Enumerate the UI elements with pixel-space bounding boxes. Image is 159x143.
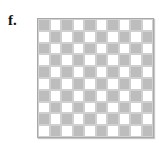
board-cell: [142, 90, 154, 102]
board-cell: [61, 90, 73, 102]
board-cell: [61, 54, 73, 66]
board-cell: [130, 19, 142, 31]
board-cell: [96, 102, 108, 114]
board-cell: [130, 125, 142, 137]
board-cell: [107, 90, 119, 102]
board-cell: [142, 125, 154, 137]
board-cell: [119, 43, 131, 55]
board-cell: [142, 19, 154, 31]
board-cell: [73, 90, 85, 102]
board-cell: [96, 54, 108, 66]
board-cell: [119, 78, 131, 90]
board-cell: [107, 66, 119, 78]
panel-label: f.: [8, 12, 17, 29]
board-cell: [84, 78, 96, 90]
board-cell: [142, 54, 154, 66]
board-cell: [84, 43, 96, 55]
board-cell: [142, 66, 154, 78]
board-cell: [107, 102, 119, 114]
board-cell: [119, 54, 131, 66]
board-cell: [73, 125, 85, 137]
board-cell: [50, 19, 62, 31]
board-cell: [142, 113, 154, 125]
board-cell: [38, 43, 50, 55]
checkerboard-grid: [37, 18, 154, 138]
board-cell: [96, 90, 108, 102]
board-cell: [84, 90, 96, 102]
board-cell: [50, 125, 62, 137]
board-cell: [119, 113, 131, 125]
board-cell: [38, 125, 50, 137]
board-cell: [50, 54, 62, 66]
board-cell: [73, 102, 85, 114]
board-cell: [119, 66, 131, 78]
board-cell: [107, 125, 119, 137]
board-cell: [107, 113, 119, 125]
board-cell: [84, 113, 96, 125]
board-cell: [96, 125, 108, 137]
board-cell: [73, 54, 85, 66]
board-cell: [142, 31, 154, 43]
board-cell: [142, 78, 154, 90]
board-cell: [73, 43, 85, 55]
board-cell: [96, 31, 108, 43]
board-cell: [61, 125, 73, 137]
board-cell: [96, 113, 108, 125]
board-cell: [61, 113, 73, 125]
board-cell: [107, 43, 119, 55]
board-cell: [130, 66, 142, 78]
board-cell: [130, 102, 142, 114]
board-cell: [107, 19, 119, 31]
board-cell: [38, 78, 50, 90]
board-cell: [73, 66, 85, 78]
board-cell: [130, 90, 142, 102]
board-cell: [50, 31, 62, 43]
board-cell: [84, 66, 96, 78]
board-cell: [38, 31, 50, 43]
board-cell: [130, 113, 142, 125]
board-cell: [73, 19, 85, 31]
board-cell: [130, 31, 142, 43]
board-cell: [38, 66, 50, 78]
board-cell: [73, 78, 85, 90]
board-cell: [61, 66, 73, 78]
board-cell: [38, 54, 50, 66]
board-cell: [38, 102, 50, 114]
board-cell: [61, 102, 73, 114]
board-cell: [50, 90, 62, 102]
board-cell: [38, 90, 50, 102]
board-cell: [119, 19, 131, 31]
board-cell: [130, 54, 142, 66]
board-cell: [38, 113, 50, 125]
board-cell: [142, 102, 154, 114]
board-cell: [38, 19, 50, 31]
board-cell: [50, 78, 62, 90]
board-cell: [96, 19, 108, 31]
board-cell: [119, 102, 131, 114]
board-cell: [50, 66, 62, 78]
board-cell: [61, 19, 73, 31]
board-cell: [84, 125, 96, 137]
board-cell: [84, 54, 96, 66]
board-cell: [50, 102, 62, 114]
board-cell: [73, 31, 85, 43]
board-cell: [96, 78, 108, 90]
board-cell: [130, 78, 142, 90]
board-cell: [84, 102, 96, 114]
board-cell: [96, 66, 108, 78]
board-cell: [142, 43, 154, 55]
board-cell: [61, 43, 73, 55]
board-cell: [61, 31, 73, 43]
board-cell: [107, 78, 119, 90]
board-cell: [107, 54, 119, 66]
board-cell: [61, 78, 73, 90]
board-cell: [73, 113, 85, 125]
board-cell: [84, 31, 96, 43]
board-cell: [50, 113, 62, 125]
board-cell: [84, 19, 96, 31]
board-cell: [96, 43, 108, 55]
board-cell: [119, 125, 131, 137]
board-cell: [119, 90, 131, 102]
board-cell: [107, 31, 119, 43]
board-cell: [130, 43, 142, 55]
